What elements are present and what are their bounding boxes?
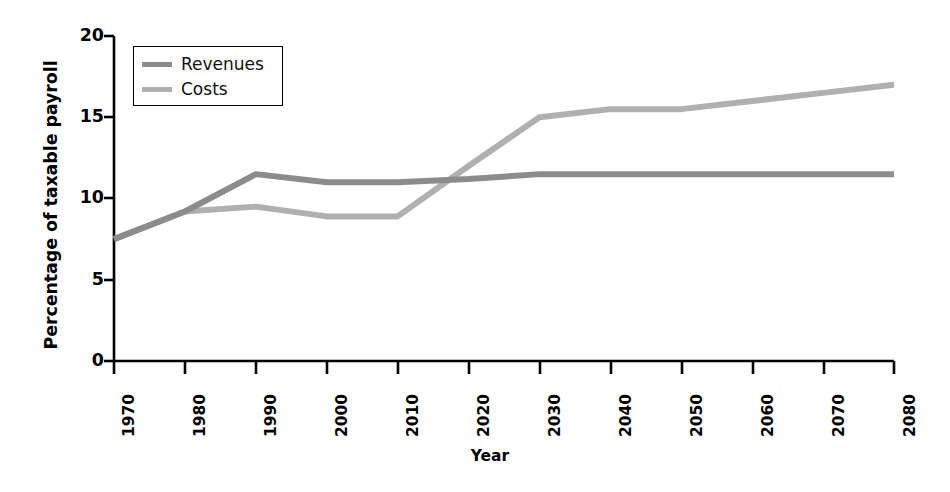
- legend-item-revenues: Revenues: [142, 52, 282, 77]
- legend-label-revenues: Revenues: [181, 56, 264, 73]
- x-axis-ticks: [114, 361, 894, 374]
- legend-swatch-costs: [142, 87, 172, 92]
- legend-item-costs: Costs: [142, 77, 282, 102]
- legend-label-costs: Costs: [181, 81, 228, 98]
- series-line-costs: [114, 85, 894, 239]
- legend-swatch-revenues: [142, 62, 172, 67]
- legend: Revenues Costs: [133, 46, 283, 106]
- line-chart: Percentage of taxable payroll 20 15 10 5…: [0, 0, 950, 492]
- y-axis-ticks: [104, 36, 114, 361]
